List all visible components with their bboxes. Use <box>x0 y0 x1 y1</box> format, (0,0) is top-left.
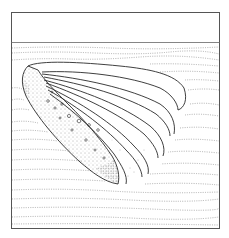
illustration <box>0 0 229 238</box>
